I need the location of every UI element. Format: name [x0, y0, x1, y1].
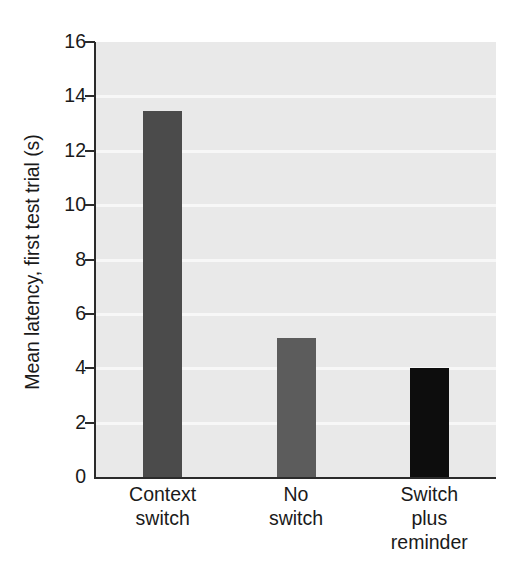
bar-chart-figure: Mean latency, first test trial (s) 02468…	[0, 0, 520, 572]
y-axis-tick-label: 16	[46, 32, 86, 52]
plot-area	[96, 42, 496, 477]
y-axis-tick-label: 6	[46, 304, 86, 324]
gridline	[96, 95, 496, 98]
y-axis-tick-label: 0	[46, 467, 86, 487]
x-axis-category-label: Context switch	[96, 482, 229, 530]
y-axis-title: Mean latency, first test trial (s)	[14, 32, 50, 492]
y-axis-tick-labels: 0246810121416	[46, 0, 86, 572]
x-axis-category-label: No switch	[229, 482, 362, 530]
y-axis-tick-label: 4	[46, 359, 86, 379]
y-axis-tick-label: 14	[46, 87, 86, 107]
y-axis-tick-label: 10	[46, 195, 86, 215]
x-axis-category-labels: Context switchNo switchSwitch plus remin…	[96, 482, 496, 572]
y-axis-tick-label: 8	[46, 250, 86, 270]
bar	[410, 368, 449, 477]
x-axis-category-label: Switch plus reminder	[363, 482, 496, 554]
y-axis-tick-label: 2	[46, 413, 86, 433]
x-axis-line	[94, 477, 496, 479]
bar	[277, 338, 316, 477]
bar	[143, 111, 182, 477]
y-axis-tick-label: 12	[46, 141, 86, 161]
